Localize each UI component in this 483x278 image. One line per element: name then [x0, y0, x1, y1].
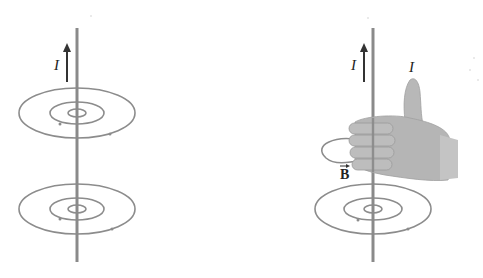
current-arrow-right	[360, 43, 368, 82]
current-label-right-wire: I	[351, 58, 356, 73]
current-label-right-thumb: I	[409, 60, 414, 75]
diagram-graphics	[0, 0, 483, 278]
magnetic-field-label: B	[340, 168, 349, 182]
magnetic-field-diagram: I I I B	[0, 0, 483, 278]
right-hand	[349, 79, 458, 181]
right-panel	[90, 15, 479, 262]
left-panel	[19, 28, 135, 262]
current-arrow-left	[63, 43, 71, 82]
current-label-left: I	[54, 58, 59, 73]
